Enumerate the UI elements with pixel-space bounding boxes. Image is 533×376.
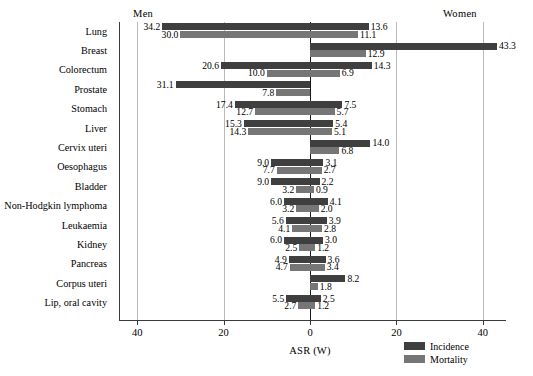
x-axis-title: ASR (W)	[264, 345, 356, 356]
bar-leukaemia-men-mortality	[292, 225, 310, 232]
bar-bladder-men-mortality	[296, 186, 310, 193]
tick-mark-3	[396, 320, 397, 325]
legend-swatch-incidence-icon	[404, 342, 425, 350]
chart-legend: Incidence Mortality	[404, 340, 469, 366]
bar-lip-oral-cavity-women-mortality	[310, 302, 315, 309]
value-label-lip-oral-cavity-women-mortality: 1.2	[317, 301, 329, 310]
value-label-breast-women-incidence: 43.3	[499, 41, 516, 50]
value-label-leukaemia-men-mortality: 4.1	[278, 224, 290, 233]
tick-label-1: 20	[204, 327, 244, 338]
row-label-pancreas: Pancreas	[0, 258, 112, 269]
bar-bladder-women-mortality	[310, 186, 314, 193]
tick-label-4: 40	[463, 327, 503, 338]
bar-corpus-uteri-women-mortality	[310, 283, 318, 290]
bar-pancreas-women-mortality	[310, 264, 325, 271]
bar-liver-men-incidence	[244, 120, 310, 127]
x-axis-line	[119, 320, 506, 321]
legend-swatch-mortality-icon	[404, 355, 425, 363]
tick-label-0: 40	[117, 327, 157, 338]
value-label-prostate-men-incidence: 31.1	[157, 80, 174, 89]
value-label-bladder-men-incidence: 9.0	[257, 177, 269, 186]
value-label-pancreas-men-mortality: 4.7	[276, 262, 288, 271]
bar-kidney-men-mortality	[299, 244, 310, 251]
value-label-stomach-men-mortality: 12.7	[236, 107, 253, 116]
bar-cervix-uteri-women-mortality	[310, 147, 339, 154]
gridline-40	[483, 22, 484, 320]
row-label-stomach: Stomach	[0, 103, 112, 114]
bar-breast-women-mortality	[310, 50, 366, 57]
row-label-breast: Breast	[0, 45, 112, 56]
value-label-non-hodgkin-lymphoma-women-mortality: 2.0	[321, 204, 333, 213]
value-label-oesophagus-women-mortality: 2.7	[324, 165, 336, 174]
bar-prostate-men-incidence	[176, 81, 310, 88]
bar-liver-women-incidence	[310, 120, 333, 127]
value-label-oesophagus-men-mortality: 7.7	[263, 165, 275, 174]
value-label-kidney-women-mortality: 1.2	[317, 243, 329, 252]
women-panel-label: Women	[443, 8, 477, 19]
value-label-bladder-men-mortality: 3.2	[282, 185, 294, 194]
bar-oesophagus-women-incidence	[310, 159, 323, 166]
value-label-lung-men-incidence: 34.2	[143, 22, 160, 31]
value-label-colorectum-women-mortality: 6.9	[342, 68, 354, 77]
row-label-non-hodgkin-lymphoma: Non-Hodgkin lymphoma	[0, 200, 112, 211]
gridline--40	[137, 22, 138, 320]
bar-oesophagus-women-mortality	[310, 167, 322, 174]
bar-stomach-women-mortality	[310, 108, 335, 115]
bar-liver-men-mortality	[248, 128, 310, 135]
value-label-cervix-uteri-women-mortality: 6.8	[341, 146, 353, 155]
row-label-cervix-uteri: Cervix uteri	[0, 142, 112, 153]
bar-prostate-men-mortality	[276, 89, 310, 96]
value-label-bladder-women-mortality: 0.9	[316, 185, 328, 194]
value-label-liver-men-mortality: 14.3	[229, 127, 246, 136]
value-label-lung-women-mortality: 11.1	[360, 30, 376, 39]
row-label-oesophagus: Oesophagus	[0, 161, 112, 172]
bar-oesophagus-men-mortality	[277, 167, 310, 174]
bar-lip-oral-cavity-men-mortality	[298, 302, 310, 309]
cancer-asr-pyramid-chart: Men Women 402002040 Lung34.213.630.011.1…	[0, 0, 533, 376]
row-label-prostate: Prostate	[0, 84, 112, 95]
bar-pancreas-women-incidence	[310, 256, 326, 263]
value-label-prostate-men-mortality: 7.8	[262, 88, 274, 97]
bar-leukaemia-women-mortality	[310, 225, 322, 232]
value-label-leukaemia-women-mortality: 2.8	[324, 224, 336, 233]
tick-label-3: 20	[376, 327, 416, 338]
bar-liver-women-mortality	[310, 128, 332, 135]
value-label-lip-oral-cavity-men-mortality: 2.7	[284, 301, 296, 310]
bar-stomach-men-mortality	[255, 108, 310, 115]
row-label-lip-oral-cavity: Lip, oral cavity	[0, 297, 112, 308]
row-label-leukaemia: Leukaemia	[0, 220, 112, 231]
value-label-cervix-uteri-women-incidence: 14.0	[372, 138, 389, 147]
legend-item-incidence: Incidence	[404, 340, 469, 352]
bar-non-hodgkin-lymphoma-women-mortality	[310, 205, 319, 212]
value-label-non-hodgkin-lymphoma-men-incidence: 6.0	[270, 197, 282, 206]
row-label-corpus-uteri: Corpus uteri	[0, 278, 112, 289]
value-label-lung-men-mortality: 30.0	[162, 30, 179, 39]
bar-oesophagus-men-incidence	[271, 159, 310, 166]
value-label-stomach-women-mortality: 5.7	[337, 107, 349, 116]
value-label-corpus-uteri-women-mortality: 1.8	[320, 282, 332, 291]
bar-breast-women-incidence	[310, 43, 497, 50]
tick-mark-4	[483, 320, 484, 325]
bar-kidney-women-mortality	[310, 244, 315, 251]
bar-colorectum-men-incidence	[221, 62, 310, 69]
men-panel-label: Men	[133, 8, 153, 19]
legend-item-mortality: Mortality	[404, 353, 469, 365]
bar-pancreas-men-incidence	[289, 256, 310, 263]
bar-lung-men-mortality	[180, 31, 310, 38]
legend-label-incidence: Incidence	[430, 341, 469, 352]
tick-mark-1	[224, 320, 225, 325]
value-label-non-hodgkin-lymphoma-men-mortality: 3.2	[282, 204, 294, 213]
tick-mark-2	[310, 320, 311, 325]
legend-label-mortality: Mortality	[430, 354, 468, 365]
value-label-kidney-men-incidence: 6.0	[270, 235, 282, 244]
bar-colorectum-women-mortality	[310, 70, 340, 77]
value-label-colorectum-men-mortality: 10.0	[248, 68, 265, 77]
value-label-liver-women-mortality: 5.1	[334, 127, 346, 136]
value-label-corpus-uteri-women-incidence: 8.2	[347, 274, 359, 283]
value-label-lip-oral-cavity-men-incidence: 5.5	[272, 294, 284, 303]
gridline-20	[396, 22, 397, 320]
value-label-colorectum-men-incidence: 20.6	[202, 61, 219, 70]
row-label-bladder: Bladder	[0, 181, 112, 192]
bar-colorectum-men-mortality	[267, 70, 310, 77]
bar-lung-men-incidence	[162, 23, 310, 30]
